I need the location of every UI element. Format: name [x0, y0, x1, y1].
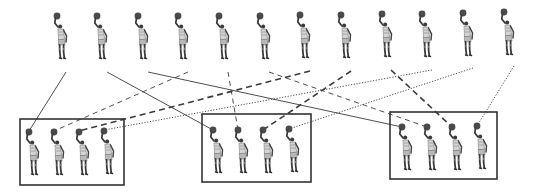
player-figure-icon	[175, 13, 188, 59]
player-figure-icon	[449, 124, 462, 170]
player-figure-icon	[257, 13, 270, 59]
player-figure-icon	[51, 129, 64, 175]
player-figure-icon	[26, 129, 39, 175]
player-figure-icon	[424, 124, 437, 170]
player-figure-icon	[460, 10, 473, 56]
player-figure-icon	[399, 124, 412, 170]
connection-thin-dashed-2	[228, 72, 238, 130]
player-figure-icon	[474, 123, 487, 169]
player-figure-icon	[76, 129, 89, 175]
connection-thin-dashed-3	[269, 72, 427, 127]
connections	[29, 66, 514, 131]
player-figure-icon	[260, 127, 273, 173]
group-box-1	[20, 119, 124, 185]
player-figure-icon	[297, 12, 310, 58]
player-figure-icon	[54, 13, 67, 59]
group-box-2	[202, 114, 311, 182]
player-figure-icon	[501, 9, 514, 55]
player-figure-icon	[101, 128, 114, 174]
top-row-players	[54, 9, 514, 59]
connection-dotted-3	[477, 66, 514, 126]
player-figure-icon	[135, 13, 148, 59]
player-figure-icon	[419, 11, 432, 57]
connection-solid-2	[107, 72, 213, 130]
player-mapping-diagram	[0, 0, 538, 194]
player-figure-icon	[94, 13, 107, 59]
connection-thick-dashed-3	[391, 70, 452, 127]
connection-dotted-1	[104, 70, 432, 130]
player-figure-icon	[235, 127, 248, 173]
player-figure-icon	[338, 12, 351, 58]
player-figure-icon	[216, 13, 229, 59]
connection-solid-1	[29, 72, 66, 131]
connection-thin-dashed-1	[54, 72, 188, 131]
connection-solid-3	[148, 72, 402, 127]
player-figure-icon	[286, 126, 299, 172]
player-figure-icon	[379, 11, 392, 57]
group-box-3	[390, 112, 497, 179]
player-figure-icon	[210, 127, 223, 173]
